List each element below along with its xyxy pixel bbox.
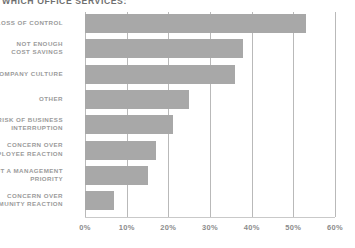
bar: [85, 115, 173, 134]
bar-row: [85, 115, 335, 134]
bar-row: [85, 14, 335, 33]
bar: [85, 65, 235, 84]
bar: [85, 191, 114, 210]
x-tick-label: 0%: [79, 223, 90, 232]
bar: [85, 39, 243, 58]
x-tick-label: 50%: [285, 223, 301, 232]
gridline-60: [335, 12, 336, 217]
x-tick-label: 40%: [244, 223, 260, 232]
plot-area: 0%10%20%30%40%50%60%LOSS OF CONTROLNOT E…: [85, 12, 335, 217]
bar-row: [85, 39, 335, 58]
x-tick-label: 20%: [160, 223, 176, 232]
category-label: NOT A MANAGEMENT PRIORITY: [0, 167, 63, 183]
bar-chart: WHICH OFFICE SERVICES: 0%10%20%30%40%50%…: [0, 0, 355, 248]
category-label: OTHER: [0, 95, 63, 103]
x-axis-baseline: [85, 217, 335, 218]
chart-title: WHICH OFFICE SERVICES:: [2, 0, 127, 6]
bar-row: [85, 90, 335, 109]
category-label: CONCERN OVER EMPLOYEE REACTION: [0, 141, 63, 157]
bar: [85, 141, 156, 160]
x-tick-label: 10%: [119, 223, 135, 232]
category-label: RISK OF BUSINESS INTERRUPTION: [0, 116, 63, 132]
category-label: LOSS OF CONTROL: [0, 19, 63, 27]
category-label: CONCERN OVER COMMUNITY REACTION: [0, 192, 63, 208]
category-label: NOT ENOUGH COST SAVINGS: [0, 40, 63, 56]
bar-row: [85, 191, 335, 210]
bar-row: [85, 141, 335, 160]
bar: [85, 90, 189, 109]
x-tick-label: 60%: [327, 223, 343, 232]
x-tick-label: 30%: [202, 223, 218, 232]
bar-row: [85, 166, 335, 185]
category-label: COMPANY CULTURE: [0, 70, 63, 78]
bar: [85, 166, 148, 185]
bar-row: [85, 65, 335, 84]
bar: [85, 14, 306, 33]
